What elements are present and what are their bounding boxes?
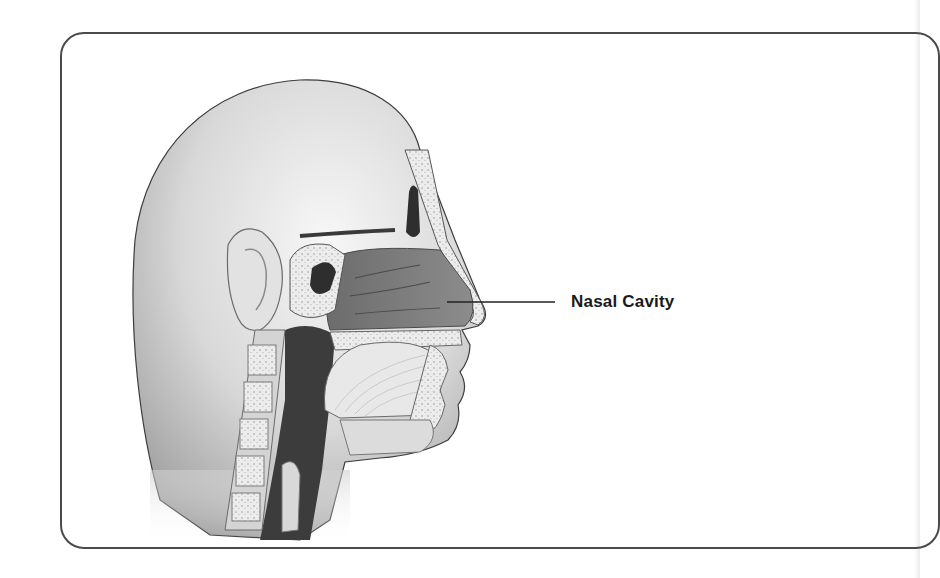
label-nasal-cavity: Nasal Cavity [571,292,675,312]
larynx [282,462,300,532]
